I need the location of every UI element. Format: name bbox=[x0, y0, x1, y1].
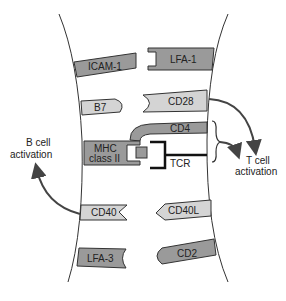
t-cell-activation-label-1: T cell bbox=[246, 155, 270, 166]
b-cell-membrane bbox=[59, 14, 82, 282]
b-cell-activation-arrow bbox=[37, 170, 80, 214]
mhc-class-ii-molecule: MHC class II bbox=[84, 141, 147, 165]
cd2-molecule: CD2 bbox=[157, 239, 216, 264]
cd28-molecule: CD28 bbox=[143, 90, 207, 112]
cd4-molecule: CD4 bbox=[130, 122, 207, 141]
immune-synapse-diagram: ICAM-1 LFA-1 B7 CD28 CD4 MHC class II TC… bbox=[0, 0, 286, 301]
t-cell-activation-label-2: activation bbox=[235, 166, 277, 177]
cd40l-molecule: CD40L bbox=[156, 200, 211, 220]
svg-text:CD4: CD4 bbox=[170, 123, 190, 134]
b-cell-activation-label-1: B cell bbox=[26, 137, 50, 148]
svg-text:B7: B7 bbox=[94, 102, 107, 113]
svg-text:CD40L: CD40L bbox=[168, 205, 200, 216]
svg-text:class II: class II bbox=[89, 153, 120, 164]
brace bbox=[212, 121, 220, 162]
svg-text:TCR: TCR bbox=[170, 158, 191, 169]
svg-text:LFA-3: LFA-3 bbox=[87, 253, 114, 264]
lfa3-molecule: LFA-3 bbox=[77, 248, 126, 268]
icam1-molecule: ICAM-1 bbox=[74, 53, 136, 77]
svg-text:CD28: CD28 bbox=[168, 96, 194, 107]
b-cell-activation-label-2: activation bbox=[10, 149, 52, 160]
svg-text:CD2: CD2 bbox=[177, 248, 197, 259]
t-cell-activation-arrow-2 bbox=[220, 142, 237, 152]
svg-text:LFA-1: LFA-1 bbox=[170, 54, 197, 65]
tcr-molecule: TCR bbox=[150, 142, 207, 169]
lfa1-molecule: LFA-1 bbox=[148, 48, 214, 70]
svg-text:ICAM-1: ICAM-1 bbox=[88, 61, 122, 72]
cd40-molecule: CD40 bbox=[80, 205, 127, 220]
svg-text:CD40: CD40 bbox=[91, 207, 117, 218]
b7-molecule: B7 bbox=[81, 99, 122, 115]
